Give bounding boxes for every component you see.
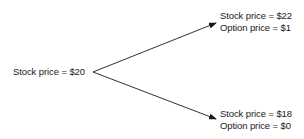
down-option-price: Option price = $0 xyxy=(220,120,292,132)
up-option-price: Option price = $1 xyxy=(220,22,292,34)
root-stock-price: Stock price = $20 xyxy=(13,66,85,78)
binomial-tree-diagram: Stock price = $20 Stock price = $22 Opti… xyxy=(0,0,304,139)
down-branch-arrow xyxy=(93,72,216,119)
root-node: Stock price = $20 xyxy=(13,66,85,78)
up-branch-arrow xyxy=(93,23,216,72)
up-stock-price: Stock price = $22 xyxy=(220,10,292,22)
down-stock-price: Stock price = $18 xyxy=(220,108,292,120)
up-state-node: Stock price = $22 Option price = $1 xyxy=(220,10,292,34)
down-state-node: Stock price = $18 Option price = $0 xyxy=(220,108,292,132)
